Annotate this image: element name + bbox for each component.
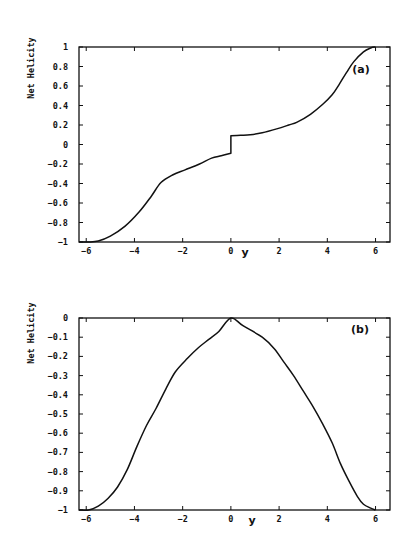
- y-tick-label: −0.5: [48, 409, 68, 419]
- x-tick-label: −6: [81, 246, 91, 256]
- x-tick-label: −4: [129, 246, 139, 256]
- y-tick-label: 0.2: [53, 120, 68, 130]
- x-tick-label: −2: [178, 246, 188, 256]
- x-axis-label: y: [248, 514, 255, 527]
- y-tick-label: −0.7: [48, 447, 68, 457]
- panel-tag-label: (b): [351, 323, 369, 336]
- x-tick-label: 6: [373, 514, 378, 524]
- y-tick-label: 0.6: [53, 81, 68, 91]
- y-tick-label: −0.2: [48, 159, 68, 169]
- y-tick-label: 0: [63, 140, 68, 150]
- x-tick-label: 4: [325, 514, 330, 524]
- x-tick-label: 0: [228, 514, 233, 524]
- x-tick-label: −4: [129, 514, 139, 524]
- y-tick-label: −0.8: [48, 218, 68, 228]
- net-helicity-curve: [79, 318, 376, 510]
- panel-b-net-helicity-vs-y: −6−4−202460−0.1−0.2−0.3−0.4−0.5−0.6−0.7−…: [26, 302, 390, 527]
- y-tick-label: −0.2: [48, 351, 68, 361]
- y-tick-label: −0.4: [48, 390, 68, 400]
- plot-frame: [79, 318, 390, 510]
- y-tick-label: −0.9: [48, 486, 68, 496]
- y-tick-label: −0.4: [48, 179, 68, 189]
- x-tick-label: 6: [373, 246, 378, 256]
- y-tick-label: 1: [63, 42, 68, 52]
- y-tick-label: −1: [58, 505, 68, 515]
- y-tick-label: 0: [63, 313, 68, 323]
- x-axis-label: y: [241, 246, 248, 259]
- y-tick-label: −1: [58, 237, 68, 247]
- x-tick-label: 0: [228, 246, 233, 256]
- y-tick-label: −0.1: [48, 332, 68, 342]
- y-axis-label: Net Helicity: [26, 302, 36, 363]
- y-tick-label: −0.8: [48, 467, 68, 477]
- net-helicity-curve: [79, 47, 376, 242]
- x-tick-label: −6: [81, 514, 91, 524]
- y-tick-label: 0.4: [53, 101, 68, 111]
- y-tick-label: −0.3: [48, 371, 68, 381]
- y-tick-label: −0.6: [48, 428, 68, 438]
- y-axis-label: Net Helicity: [26, 37, 36, 98]
- y-tick-label: −0.6: [48, 198, 68, 208]
- helicity-figure: −6−4−2024610.80.60.40.20−0.2−0.4−0.6−0.8…: [0, 0, 416, 560]
- panel-tag-label: (a): [352, 63, 369, 76]
- y-tick-label: 0.8: [53, 62, 68, 72]
- panel-a-net-helicity-vs-y: −6−4−2024610.80.60.40.20−0.2−0.4−0.6−0.8…: [26, 37, 390, 259]
- x-tick-label: 2: [277, 246, 282, 256]
- x-tick-label: 4: [325, 246, 330, 256]
- x-tick-label: 2: [277, 514, 282, 524]
- x-tick-label: −2: [178, 514, 188, 524]
